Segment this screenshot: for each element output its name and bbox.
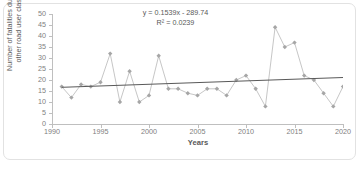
data-point-marker [98, 80, 102, 84]
data-point-marker [263, 104, 267, 108]
x-axis-title: Years [52, 138, 344, 147]
x-tick-label: 2000 [141, 127, 157, 136]
trendline-annotation: y = 0.1539x - 289.74 R² = 0.0239 [118, 8, 233, 28]
data-point-marker [157, 54, 161, 58]
data-point-marker [176, 87, 180, 91]
series-line [62, 27, 343, 106]
y-tick-label: 0 [0, 119, 46, 128]
y-tick-label: 50 [0, 9, 46, 18]
x-tick-label: 1990 [44, 127, 60, 136]
y-tick-label: 5 [0, 108, 46, 117]
data-point-marker [127, 69, 131, 73]
data-point-marker [166, 87, 170, 91]
y-tick-label: 20 [0, 75, 46, 84]
data-point-marker [108, 51, 112, 55]
plot-area [52, 14, 343, 124]
y-tick-label: 15 [0, 86, 46, 95]
chart-figure: Number of fatalities due to other road u… [0, 0, 363, 169]
x-tick-label: 2020 [335, 127, 351, 136]
data-point-marker [273, 25, 277, 29]
x-tick-label: 2010 [238, 127, 254, 136]
x-tick-label: 2005 [190, 127, 206, 136]
y-tick-label: 10 [0, 97, 46, 106]
data-point-marker [283, 45, 287, 49]
data-point-marker [118, 100, 122, 104]
data-point-marker [292, 40, 296, 44]
y-tick-label: 25 [0, 64, 46, 73]
data-point-marker [302, 73, 306, 77]
trendline-rsquared: R² = 0.0239 [118, 18, 233, 28]
y-tick-label: 45 [0, 20, 46, 29]
y-tick-label: 40 [0, 31, 46, 40]
trendline-equation: y = 0.1539x - 289.74 [118, 8, 233, 18]
y-tick-label: 30 [0, 53, 46, 62]
trendline [62, 78, 343, 88]
data-point-marker [186, 91, 190, 95]
x-tick-label: 1995 [93, 127, 109, 136]
x-tick-label: 2015 [287, 127, 303, 136]
data-series-svg [52, 14, 343, 124]
y-tick-label: 35 [0, 42, 46, 51]
